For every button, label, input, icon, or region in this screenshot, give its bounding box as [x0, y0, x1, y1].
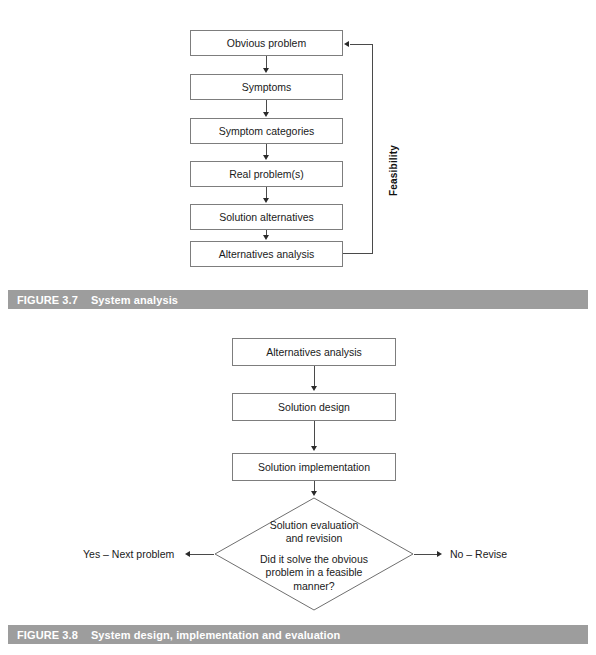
figure-number: FIGURE 3.7 [17, 294, 78, 306]
feedback-line-vertical [372, 44, 373, 254]
flow-node-label: Alternatives analysis [266, 346, 362, 358]
flow-node-label: Solution implementation [258, 461, 370, 473]
flow-node-obvious-problem: Obvious problem [190, 30, 343, 56]
flow-node-label: Symptom categories [219, 125, 315, 137]
branch-label-yes: Yes – Next problem [83, 548, 174, 560]
feasibility-label: Feasibility [388, 145, 399, 196]
arrow-down-icon [263, 68, 269, 73]
arrow-left-icon [185, 551, 190, 557]
feedback-line-top [350, 44, 373, 45]
flow-node-solution-alternatives: Solution alternatives [190, 204, 343, 230]
flow-node-solution-evaluation: Solution evaluation and revision Did it … [214, 497, 414, 611]
branch-label-no: No – Revise [450, 548, 507, 560]
figure-title: System analysis [91, 294, 178, 306]
arrow-down-icon [263, 235, 269, 240]
figure-caption-3-7: FIGURE 3.7 System analysis [8, 290, 588, 309]
arrow-down-icon [311, 491, 317, 496]
flow-node-alternatives-analysis: Alternatives analysis [190, 241, 343, 267]
connector-line [314, 366, 315, 387]
feedback-line-bottom [343, 253, 372, 254]
arrow-right-icon [437, 551, 442, 557]
flow-node-solution-implementation: Solution implementation [232, 453, 396, 481]
flow-node-label: Symptoms [242, 81, 292, 93]
branch-line-yes [190, 554, 214, 555]
branch-line-no [414, 554, 437, 555]
flow-node-symptoms: Symptoms [190, 74, 343, 100]
figure-caption-3-8: FIGURE 3.8 System design, implementation… [8, 625, 588, 644]
flow-node-solution-design: Solution design [232, 393, 396, 421]
connector-line [314, 421, 315, 447]
flow-node-label: Alternatives analysis [219, 248, 315, 260]
flow-node-label: Solution design [278, 401, 350, 413]
arrow-left-icon [344, 41, 349, 47]
flow-node-label: Real problem(s) [229, 168, 304, 180]
figure-title: System design, implementation and evalua… [91, 629, 341, 641]
flow-node-symptom-categories: Symptom categories [190, 118, 343, 144]
arrow-down-icon [263, 112, 269, 117]
figure-number: FIGURE 3.8 [17, 629, 78, 641]
flow-node-alternatives-analysis-2: Alternatives analysis [232, 338, 396, 366]
flow-node-label: Obvious problem [227, 37, 306, 49]
arrow-down-icon [311, 386, 317, 391]
flow-node-label: Solution alternatives [219, 211, 314, 223]
arrow-down-icon [263, 155, 269, 160]
arrow-down-icon [311, 446, 317, 451]
flow-node-real-problems: Real problem(s) [190, 161, 343, 187]
diamond-shape [214, 497, 414, 611]
arrow-down-icon [263, 198, 269, 203]
